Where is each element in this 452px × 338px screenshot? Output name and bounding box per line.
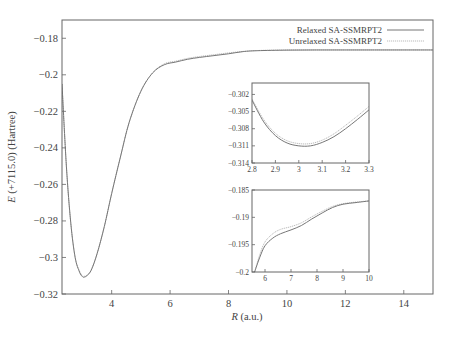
energy-curve-chart: 468101214−0.18−0.2−0.22−0.24−0.26−0.28−0…: [0, 0, 452, 338]
y-tick-label: −0.26: [34, 179, 58, 190]
y-tick-label: −0.195: [228, 240, 249, 249]
y-tick-label: −0.2: [235, 268, 249, 277]
x-tick-label: 10: [282, 298, 293, 309]
plot-frame: [62, 20, 433, 294]
y-tick-label: −0.308: [228, 124, 249, 133]
x-tick-label: 8: [226, 298, 231, 309]
y-tick-label: −0.302: [228, 90, 249, 99]
y-tick-label: −0.305: [228, 107, 249, 116]
x-tick-label: 9: [341, 274, 345, 283]
inset-background: [252, 83, 369, 163]
x-tick-label: 4: [109, 298, 115, 309]
y-tick-label: −0.3: [39, 252, 58, 263]
inset-tail-region: 678910−0.185−0.19−0.195−0.2: [228, 186, 373, 284]
inset-minimum-region: 2.82.933.13.23.3−0.302−0.305−0.308−0.311…: [228, 83, 374, 174]
legend: Relaxed SA-SSMRPT2 Unrelaxed SA-SSMRPT2: [289, 25, 424, 46]
x-tick-label: 3: [297, 165, 301, 174]
y-tick-label: −0.32: [34, 289, 58, 300]
y-tick-label: −0.18: [34, 33, 58, 44]
x-tick-label: 14: [399, 298, 410, 309]
x-axis-title-unit: (a.u.): [238, 311, 263, 323]
y-tick-label: −0.311: [228, 141, 249, 150]
y-axis-title: E (+7115.0) (Hartree): [6, 111, 18, 204]
x-tick-label: 7: [289, 274, 293, 283]
y-tick-label: −0.28: [34, 215, 58, 226]
x-tick-label: 2.9: [271, 165, 281, 174]
x-tick-label: 3.1: [318, 165, 328, 174]
x-tick-label: 3.2: [341, 165, 351, 174]
y-tick-label: −0.185: [228, 186, 249, 195]
legend-label-relaxed: Relaxed SA-SSMRPT2: [297, 25, 382, 35]
x-tick-label: 6: [263, 274, 267, 283]
y-axis-title-unit: (+7115.0) (Hartree): [6, 111, 18, 197]
y-tick-label: −0.2: [39, 69, 58, 80]
x-tick-label: 3.3: [364, 165, 374, 174]
y-tick-label: −0.19: [232, 213, 250, 222]
y-tick-label: −0.22: [34, 106, 58, 117]
legend-label-unrelaxed: Unrelaxed SA-SSMRPT2: [289, 36, 382, 46]
x-tick-label: 10: [365, 274, 373, 283]
x-tick-label: 6: [167, 298, 172, 309]
y-tick-label: −0.314: [228, 159, 249, 168]
x-tick-label: 8: [315, 274, 319, 283]
x-axis-title: R (a.u.): [230, 311, 263, 323]
y-tick-label: −0.24: [34, 142, 59, 153]
x-tick-label: 12: [340, 298, 351, 309]
